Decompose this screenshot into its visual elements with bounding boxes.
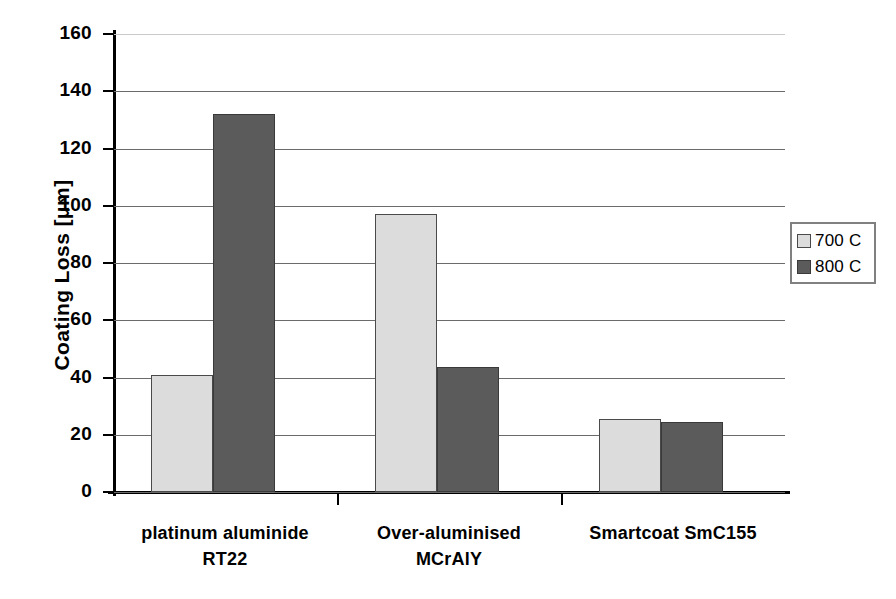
y-tick-label-160: 160 — [0, 22, 92, 44]
gridline-160 — [113, 34, 785, 35]
bar-0-800c — [213, 114, 275, 492]
legend-label-700c: 700 C — [815, 231, 861, 251]
legend-swatch-700c-icon — [797, 234, 811, 248]
category-label-2: Smartcoat SmC155 — [543, 520, 803, 546]
bar-chart: Coating Loss [μm] 160140120100806040200 … — [0, 0, 896, 599]
bar-1-700c — [375, 214, 437, 492]
y-tick-label-80: 80 — [0, 251, 92, 273]
legend: 700 C 800 C — [790, 222, 876, 284]
y-tick-40 — [103, 377, 114, 379]
bar-2-700c — [599, 419, 661, 492]
y-tick-label-100: 100 — [0, 194, 92, 216]
y-tick-60 — [103, 319, 114, 321]
y-tick-label-120: 120 — [0, 137, 92, 159]
legend-label-800c: 800 C — [815, 257, 861, 277]
category-label-1: Over-aluminised MCrAlY — [319, 520, 579, 572]
y-tick-label-0: 0 — [0, 480, 92, 502]
gridline-0 — [113, 492, 785, 493]
y-tick-label-40: 40 — [0, 366, 92, 388]
x-tick-2 — [561, 494, 563, 505]
y-tick-160 — [103, 33, 114, 35]
gridline-140 — [113, 91, 785, 92]
y-tick-label-20: 20 — [0, 423, 92, 445]
y-tick-140 — [103, 90, 114, 92]
bar-0-700c — [151, 375, 213, 492]
x-tick-1 — [337, 494, 339, 505]
y-tick-80 — [103, 262, 114, 264]
y-tick-0 — [103, 491, 114, 493]
y-tick-20 — [103, 434, 114, 436]
category-label-0: platinum aluminide RT22 — [95, 520, 355, 572]
legend-item-1: 800 C — [797, 254, 870, 280]
y-tick-label-140: 140 — [0, 79, 92, 101]
y-tick-label-60: 60 — [0, 308, 92, 330]
y-tick-120 — [103, 148, 114, 150]
legend-swatch-800c-icon — [797, 260, 811, 274]
bar-2-800c — [661, 422, 723, 492]
legend-item-0: 700 C — [797, 228, 870, 254]
y-tick-100 — [103, 205, 114, 207]
plot-area — [113, 34, 785, 492]
bar-1-800c — [437, 367, 499, 492]
